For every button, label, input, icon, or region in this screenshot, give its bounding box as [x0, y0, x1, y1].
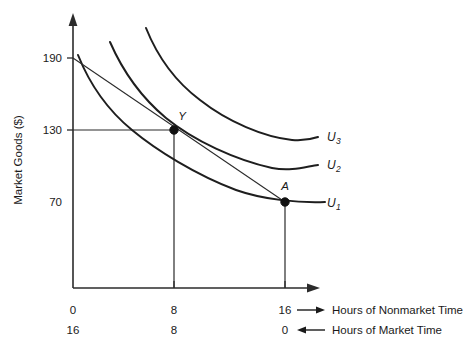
y-axis: [69, 13, 78, 288]
curve-label-u1-sub: 1: [336, 202, 341, 212]
x-tick-label-nonmarket-0: 0: [70, 304, 76, 316]
curve-label-u2-base: U: [327, 158, 336, 172]
x-axis-title-market: Hours of Market Time: [332, 324, 442, 336]
curve-label-u2-sub: 2: [335, 164, 341, 174]
y-tick-marks: [67, 58, 73, 130]
y-tick-label-130: 130: [43, 124, 62, 136]
y-axis-arrowhead: [69, 13, 78, 26]
y-tick-label-70: 70: [49, 196, 62, 208]
y-tick-label-190: 190: [43, 52, 62, 64]
curve-label-u2: U 2: [327, 158, 341, 174]
x-tick-label-nonmarket-8: 8: [171, 304, 177, 316]
point-y-label: Y: [178, 110, 187, 122]
point-a-marker: [281, 198, 289, 206]
indifference-curve-u2: [110, 42, 318, 169]
x-tick-label-market-0: 0: [282, 324, 288, 336]
x-tick-marks: [174, 281, 285, 288]
curve-label-u3-base: U: [327, 130, 336, 144]
curve-label-u1-base: U: [327, 196, 336, 210]
indifference-curve-figure: Y A U 3 U 2 U 1 190 130 70 Market Goods …: [0, 0, 473, 342]
arrow-right-icon: [297, 306, 325, 313]
x-tick-label-nonmarket-16: 16: [279, 304, 292, 316]
guide-lines: [73, 130, 285, 288]
x-tick-label-market-8: 8: [171, 324, 177, 336]
x-axis-row-nonmarket: 0 8 16 Hours of Nonmarket Time: [70, 304, 463, 316]
curve-label-u1: U 1: [327, 196, 341, 212]
x-axis-arrowhead: [307, 284, 320, 293]
x-tick-label-market-16: 16: [67, 324, 80, 336]
y-axis-title: Market Goods ($): [12, 115, 24, 205]
arrow-left-icon: [297, 326, 325, 333]
x-axis-title-nonmarket: Hours of Nonmarket Time: [332, 304, 463, 316]
x-axis-row-market: 16 8 0 Hours of Market Time: [67, 324, 442, 336]
x-axis: [73, 284, 320, 293]
point-a-label: A: [280, 180, 289, 192]
curve-label-u3-sub: 3: [336, 136, 341, 146]
chart-canvas: Y A U 3 U 2 U 1 190 130 70 Market Goods …: [0, 0, 473, 342]
point-y-marker: [170, 126, 178, 134]
curve-label-u3: U 3: [327, 130, 341, 146]
